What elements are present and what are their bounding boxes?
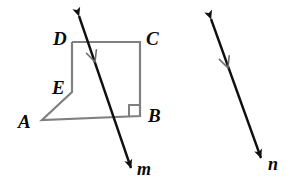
right-angle-icon	[129, 105, 140, 116]
geometry-diagram: D C E B A m n	[0, 0, 293, 191]
vertex-label-b: B	[148, 106, 161, 125]
line-label-n: n	[268, 155, 278, 173]
vertex-label-d: D	[53, 29, 67, 48]
line-m-group	[79, 16, 131, 168]
right-angle-marker-b	[129, 105, 140, 116]
line-n-group	[211, 19, 261, 158]
line-n	[211, 19, 261, 158]
line-m	[79, 16, 131, 168]
vertex-label-c: C	[146, 29, 159, 48]
line-label-m: m	[137, 160, 151, 178]
vertex-label-e: E	[52, 78, 65, 97]
vertex-label-a: A	[18, 112, 31, 131]
